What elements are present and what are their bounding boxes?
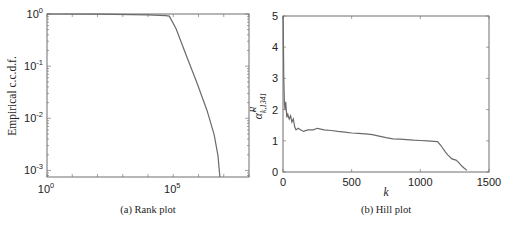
hill-plot-ticks bbox=[283, 16, 489, 172]
x-tick-label: 105 bbox=[164, 181, 180, 195]
rank-plot-panel: 10010-110-210-3 100105 Empirical c.c.d.f… bbox=[6, 6, 249, 216]
y-tick-label: 10-3 bbox=[24, 162, 43, 176]
y-tick-label: 0 bbox=[272, 166, 278, 178]
y-tick-label: 5 bbox=[272, 10, 278, 22]
ylabel-sub: k,1341 bbox=[259, 93, 268, 113]
svg-text:α̂Hk,1341: α̂Hk,1341 bbox=[249, 93, 268, 120]
hill-plot-x-axis-label: k bbox=[383, 186, 389, 198]
hill-plot-x-tick-labels: 050010001500 bbox=[280, 176, 501, 188]
hill-plot-frame bbox=[283, 16, 489, 172]
y-tick-label: 10-2 bbox=[24, 110, 43, 124]
y-tick-label: 3 bbox=[272, 72, 278, 84]
hill-plot-panel: 012345 050010001500 α̂Hk,1341 k (b) Hill… bbox=[249, 10, 501, 216]
rank-plot-ticks bbox=[47, 14, 249, 177]
ylabel-sup: H bbox=[249, 106, 258, 113]
x-tick-label: 1500 bbox=[477, 176, 501, 188]
rank-plot-caption: (a) Rank plot bbox=[120, 204, 175, 216]
rank-plot-y-tick-labels: 10010-110-210-3 bbox=[24, 6, 43, 176]
rank-plot-x-tick-labels: 100105 bbox=[38, 181, 181, 195]
hill-plot-y-axis-label: α̂Hk,1341 bbox=[249, 93, 268, 120]
x-tick-label: 500 bbox=[342, 176, 360, 188]
y-tick-label: 4 bbox=[272, 41, 278, 53]
y-tick-label: 10-1 bbox=[24, 58, 43, 72]
x-tick-label: 0 bbox=[280, 176, 286, 188]
hill-plot-y-tick-labels: 012345 bbox=[272, 10, 278, 178]
hill-plot-caption: (b) Hill plot bbox=[361, 204, 411, 216]
y-tick-label: 1 bbox=[272, 135, 278, 147]
x-tick-label: 1000 bbox=[408, 176, 432, 188]
figure: 10010-110-210-3 100105 Empirical c.c.d.f… bbox=[0, 0, 509, 226]
rank-plot-frame bbox=[47, 14, 249, 177]
rank-plot-curve bbox=[47, 14, 220, 177]
y-tick-label: 100 bbox=[27, 6, 43, 20]
y-tick-label: 2 bbox=[272, 104, 278, 116]
x-tick-label: 100 bbox=[38, 181, 54, 195]
rank-plot-y-axis-label: Empirical c.c.d.f. bbox=[6, 56, 19, 136]
hill-plot-curve bbox=[283, 16, 467, 170]
